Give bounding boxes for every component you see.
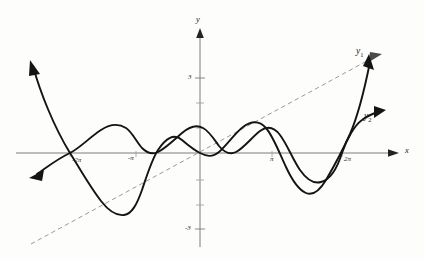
x-tick-label-minus-2pi: -2π xyxy=(72,157,81,164)
curve-label-y1-subscript: 1 xyxy=(360,51,363,58)
y-axis xyxy=(195,28,205,247)
curve-y1-arrowhead-left xyxy=(29,60,40,76)
curve-y2-arrowhead-right xyxy=(374,106,386,118)
x-tick-label-2pi: 2π xyxy=(344,156,351,163)
graph-figure: x y -2π -π π 2π 3 -3 y1 y2 xyxy=(0,0,424,260)
curve-label-y2: y2 xyxy=(364,112,371,123)
y-axis-arrowhead xyxy=(196,28,204,38)
curve-y2-arrowhead-left xyxy=(29,170,44,181)
curve-label-y1: y1 xyxy=(356,47,363,58)
x-tick-label-minus-pi: -π xyxy=(128,155,134,162)
y-tick-label-3: 3 xyxy=(188,74,192,81)
x-axis-arrowhead xyxy=(388,149,399,157)
x-axis-label: x xyxy=(405,146,409,155)
y-tick-label-minus-3: -3 xyxy=(185,225,191,232)
plot-canvas xyxy=(0,0,424,260)
dashed-reference-line-y-equals-x xyxy=(31,52,382,244)
curve-label-y2-subscript: 2 xyxy=(368,116,371,123)
curve-y2 xyxy=(29,106,386,183)
y-axis-label: y xyxy=(196,15,200,24)
x-tick-label-pi: π xyxy=(270,156,274,163)
